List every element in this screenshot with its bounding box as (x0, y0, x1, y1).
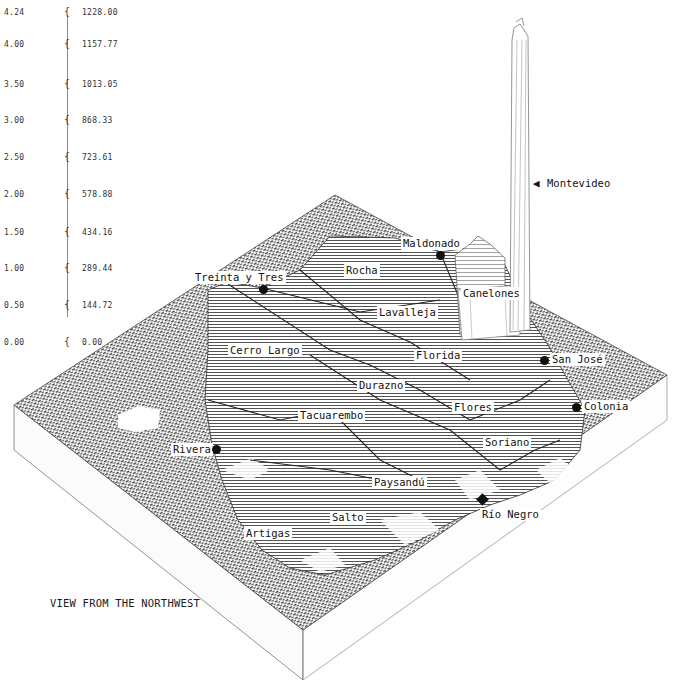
marker-treinta-y-tres (259, 285, 268, 294)
label-artigas: Artigas (244, 527, 292, 540)
label-cerro-largo: Cerro Largo (228, 344, 302, 357)
prism-map-figure: 4.24{1228.004.00{1157.773.50{1013.053.00… (0, 0, 680, 690)
label-treinta-y-tres: Treinta y Tres (193, 271, 286, 284)
marker-san-jose (540, 356, 549, 365)
label-canelones: Canelones (461, 287, 522, 300)
label-florida: Florida (414, 349, 462, 362)
label-rio-negro: Río Negro (480, 508, 541, 521)
label-paysandu: Paysandú (372, 476, 427, 489)
label-lavalleja: Lavalleja (377, 306, 438, 319)
label-tacuarembo: Tacuarembo (298, 409, 365, 422)
label-colonia: Colonia (582, 400, 630, 413)
surface-map-drawing (0, 0, 680, 690)
label-montevideo: Montevideo (545, 177, 612, 190)
montevideo-spike (510, 18, 530, 332)
label-san-jose: San José (550, 353, 605, 366)
label-salto: Salto (330, 511, 366, 524)
marker-maldonado (436, 251, 445, 260)
marker-rivera (212, 445, 221, 454)
label-rocha: Rocha (344, 264, 380, 277)
marker-colonia (572, 403, 581, 412)
label-rivera: Rivera (171, 443, 213, 456)
label-flores: Flores (452, 401, 494, 414)
label-soriano: Soriano (483, 436, 531, 449)
view-caption: VIEW FROM THE NORTHWEST (50, 597, 200, 609)
arrow-montevideo: ◀ (533, 177, 540, 190)
label-maldonado: Maldonado (401, 237, 462, 250)
label-durazno: Durazno (357, 379, 405, 392)
